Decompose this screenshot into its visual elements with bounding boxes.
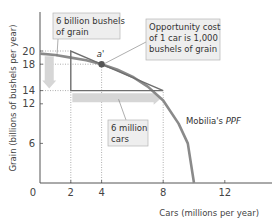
ppf-label: Mobilia's PPF (186, 116, 241, 126)
x-tick-label-12: 12 (218, 187, 231, 198)
grain-callout-leader (57, 39, 58, 56)
ppf-label-italic: PPF (226, 116, 241, 126)
points: a' (97, 49, 105, 67)
ppf-label-prefix: Mobilia's (186, 116, 226, 126)
opportunity-cost-callout-line-1: of 1 car is 1,000 (149, 33, 218, 43)
y-tick-label-18: 18 (22, 59, 35, 70)
ppf-curve (40, 54, 194, 183)
y-tick-label-20: 20 (22, 46, 35, 57)
x-tick-label-8: 8 (160, 187, 166, 198)
cars-callout-line-0: 6 million (111, 123, 147, 133)
x-tick-label-2: 2 (68, 187, 74, 198)
x-tick-label-0: 0 (30, 187, 36, 198)
y-axis-title: Grain (billions of bushels per year) (8, 25, 18, 172)
opportunity-cost-callout-line-0: Opportunity cost (149, 22, 221, 32)
x-axis-title: Cars (millions per year) (159, 208, 259, 218)
cars-increase-arrow (72, 91, 161, 105)
y-tick-label-14: 14 (22, 85, 35, 96)
y-tick-label-6: 6 (29, 138, 35, 149)
ppf-chart: 612141820024812 a' 6 billion bushelsof g… (0, 0, 279, 224)
grain-callout-line-0: 6 billion bushels (56, 16, 125, 26)
y-tick-label-12: 12 (22, 98, 35, 109)
reference-lines (40, 51, 163, 183)
ppf-curve-group (40, 54, 194, 183)
point-a-prime-label: a' (97, 49, 105, 59)
grain-callout-line-1: of grain (56, 27, 89, 37)
cars-callout-line-1: cars (111, 134, 129, 144)
point-a-prime (98, 61, 104, 67)
opportunity-cost-callout-leader (105, 42, 146, 64)
x-tick-label-4: 4 (98, 187, 104, 198)
opportunity-cost-callout-line-2: bushels of grain (149, 44, 217, 54)
grain-decrease-arrow (42, 56, 56, 88)
